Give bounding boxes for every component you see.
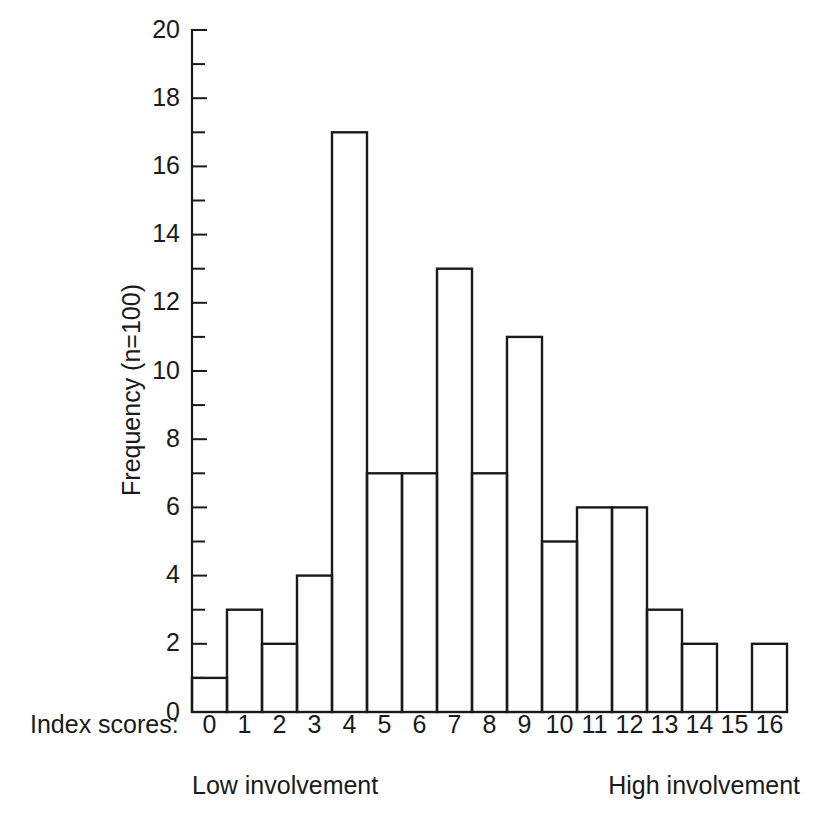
y-tick-label: 16 bbox=[152, 151, 180, 179]
y-tick-label: 10 bbox=[152, 356, 180, 384]
x-tick-label: 3 bbox=[308, 710, 322, 738]
x-tick-label: 6 bbox=[413, 710, 427, 738]
x-tick-label: 12 bbox=[616, 710, 644, 738]
y-tick-label: 2 bbox=[166, 628, 180, 656]
histogram-bar bbox=[262, 644, 297, 712]
histogram-bar bbox=[367, 473, 402, 712]
chart-axes bbox=[192, 30, 787, 712]
histogram-bar bbox=[192, 678, 227, 712]
y-tick-label: 18 bbox=[152, 83, 180, 111]
caption-high-involvement: High involvement bbox=[608, 771, 800, 799]
histogram-bars bbox=[192, 132, 787, 712]
x-tick-label: 11 bbox=[582, 710, 608, 738]
histogram-bar bbox=[472, 473, 507, 712]
y-tick-label: 6 bbox=[166, 492, 180, 520]
y-tick-label: 8 bbox=[166, 424, 180, 452]
x-tick-label: 4 bbox=[343, 710, 357, 738]
x-tick-label: 16 bbox=[756, 710, 784, 738]
histogram-bar bbox=[647, 610, 682, 712]
x-tick-label: 5 bbox=[378, 710, 392, 738]
caption-low-involvement: Low involvement bbox=[192, 771, 378, 799]
x-tick-label: 0 bbox=[203, 710, 217, 738]
x-tick-label: 2 bbox=[273, 710, 287, 738]
histogram-bar bbox=[577, 507, 612, 712]
histogram-bar bbox=[227, 610, 262, 712]
x-axis-name: Index scores: bbox=[30, 710, 179, 738]
x-tick-label: 10 bbox=[546, 710, 574, 738]
x-tick-label: 15 bbox=[721, 710, 749, 738]
histogram-bar bbox=[507, 337, 542, 712]
y-axis-title: Frequency (n=100) bbox=[117, 284, 145, 496]
y-axis-tick-marks bbox=[192, 30, 207, 678]
histogram-bar bbox=[542, 542, 577, 713]
x-axis-tick-labels: 012345678910111213141516 bbox=[203, 710, 784, 738]
histogram-bar bbox=[297, 576, 332, 712]
histogram-bar bbox=[437, 269, 472, 712]
histogram-bar bbox=[682, 644, 717, 712]
histogram-figure: Frequency (n=100) 02468101214161820 0123… bbox=[0, 0, 815, 824]
histogram-bar bbox=[612, 507, 647, 712]
x-tick-label: 14 bbox=[686, 710, 714, 738]
histogram-chart: Frequency (n=100) 02468101214161820 0123… bbox=[0, 0, 815, 824]
histogram-bar bbox=[402, 473, 437, 712]
y-axis-tick-labels: 02468101214161820 bbox=[152, 15, 180, 725]
y-tick-label: 20 bbox=[152, 15, 180, 43]
x-tick-label: 9 bbox=[518, 710, 532, 738]
histogram-bar bbox=[752, 644, 787, 712]
x-tick-label: 8 bbox=[483, 710, 497, 738]
y-tick-label: 4 bbox=[166, 560, 180, 588]
x-tick-label: 7 bbox=[448, 710, 462, 738]
y-tick-label: 14 bbox=[152, 219, 180, 247]
x-tick-label: 1 bbox=[238, 710, 252, 738]
histogram-bar bbox=[332, 132, 367, 712]
y-tick-label: 12 bbox=[152, 287, 180, 315]
x-tick-label: 13 bbox=[651, 710, 679, 738]
